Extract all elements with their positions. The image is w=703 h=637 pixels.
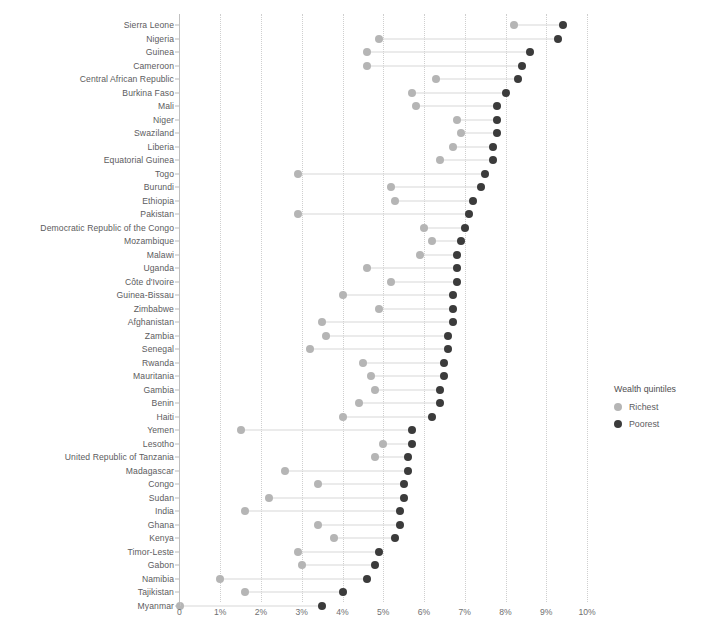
data-point-richest[interactable] (294, 548, 302, 556)
chart-row[interactable]: Zimbabwe (0, 302, 703, 316)
data-point-richest[interactable] (412, 102, 420, 110)
chart-row[interactable]: Mozambique (0, 234, 703, 248)
data-point-richest[interactable] (241, 507, 249, 515)
data-point-richest[interactable] (318, 318, 326, 326)
data-point-poorest[interactable] (461, 224, 469, 232)
data-point-poorest[interactable] (518, 62, 526, 70)
chart-row[interactable]: Burundi (0, 180, 703, 194)
data-point-richest[interactable] (363, 264, 371, 272)
chart-row[interactable]: Mali (0, 99, 703, 113)
data-point-poorest[interactable] (436, 399, 444, 407)
data-point-richest[interactable] (379, 440, 387, 448)
chart-row[interactable]: India (0, 504, 703, 518)
chart-row[interactable]: Tajikistan (0, 585, 703, 599)
chart-row[interactable]: Malawi (0, 248, 703, 262)
chart-row[interactable]: Timor-Leste (0, 545, 703, 559)
chart-row[interactable]: Senegal (0, 342, 703, 356)
chart-row[interactable]: Pakistan (0, 207, 703, 221)
chart-row[interactable]: Guinea (0, 45, 703, 59)
legend-item-richest[interactable]: Richest (614, 402, 702, 412)
data-point-richest[interactable] (371, 453, 379, 461)
data-point-poorest[interactable] (400, 480, 408, 488)
chart-row[interactable]: Ghana (0, 518, 703, 532)
chart-row[interactable]: Namibia (0, 572, 703, 586)
data-point-richest[interactable] (420, 224, 428, 232)
data-point-richest[interactable] (355, 399, 363, 407)
data-point-poorest[interactable] (363, 575, 371, 583)
chart-row[interactable]: Cameroon (0, 59, 703, 73)
data-point-poorest[interactable] (408, 440, 416, 448)
chart-row[interactable]: Côte d'Ivoire (0, 275, 703, 289)
chart-row[interactable]: Sierra Leone (0, 18, 703, 32)
data-point-richest[interactable] (314, 521, 322, 529)
data-point-poorest[interactable] (444, 332, 452, 340)
chart-row[interactable]: United Republic of Tanzania (0, 450, 703, 464)
data-point-richest[interactable] (265, 494, 273, 502)
chart-row[interactable]: Zambia (0, 329, 703, 343)
data-point-richest[interactable] (436, 156, 444, 164)
data-point-richest[interactable] (237, 426, 245, 434)
data-point-poorest[interactable] (465, 210, 473, 218)
data-point-poorest[interactable] (481, 170, 489, 178)
chart-row[interactable]: Benin (0, 396, 703, 410)
chart-row[interactable]: Yemen (0, 423, 703, 437)
data-point-richest[interactable] (387, 278, 395, 286)
data-point-poorest[interactable] (444, 345, 452, 353)
data-point-poorest[interactable] (440, 372, 448, 380)
chart-row[interactable]: Central African Republic (0, 72, 703, 86)
chart-row[interactable]: Niger (0, 113, 703, 127)
chart-row[interactable]: Equatorial Guinea (0, 153, 703, 167)
chart-row[interactable]: Swaziland (0, 126, 703, 140)
chart-row[interactable]: Liberia (0, 140, 703, 154)
data-point-richest[interactable] (432, 75, 440, 83)
data-point-richest[interactable] (294, 210, 302, 218)
data-point-poorest[interactable] (493, 102, 501, 110)
data-point-poorest[interactable] (493, 116, 501, 124)
chart-row[interactable]: Congo (0, 477, 703, 491)
data-point-richest[interactable] (281, 467, 289, 475)
chart-row[interactable]: Mauritania (0, 369, 703, 383)
data-point-poorest[interactable] (391, 534, 399, 542)
data-point-poorest[interactable] (559, 21, 567, 29)
data-point-richest[interactable] (408, 89, 416, 97)
data-point-poorest[interactable] (489, 143, 497, 151)
chart-row[interactable]: Ethiopia (0, 194, 703, 208)
chart-row[interactable]: Rwanda (0, 356, 703, 370)
data-point-richest[interactable] (241, 588, 249, 596)
data-point-poorest[interactable] (404, 453, 412, 461)
data-point-richest[interactable] (298, 561, 306, 569)
data-point-poorest[interactable] (318, 602, 326, 610)
data-point-poorest[interactable] (489, 156, 497, 164)
data-point-poorest[interactable] (375, 548, 383, 556)
data-point-poorest[interactable] (339, 588, 347, 596)
data-point-poorest[interactable] (449, 291, 457, 299)
data-point-poorest[interactable] (554, 35, 562, 43)
chart-row[interactable]: Gabon (0, 558, 703, 572)
data-point-richest[interactable] (449, 143, 457, 151)
data-point-richest[interactable] (339, 291, 347, 299)
data-point-poorest[interactable] (453, 278, 461, 286)
chart-row[interactable]: Madagascar (0, 464, 703, 478)
data-point-richest[interactable] (391, 197, 399, 205)
data-point-richest[interactable] (216, 575, 224, 583)
data-point-richest[interactable] (339, 413, 347, 421)
data-point-poorest[interactable] (436, 386, 444, 394)
legend-item-poorest[interactable]: Poorest (614, 419, 702, 429)
chart-row[interactable]: Uganda (0, 261, 703, 275)
data-point-richest[interactable] (322, 332, 330, 340)
data-point-richest[interactable] (330, 534, 338, 542)
chart-row[interactable]: Lesotho (0, 437, 703, 451)
data-point-richest[interactable] (416, 251, 424, 259)
data-point-richest[interactable] (371, 386, 379, 394)
data-point-richest[interactable] (387, 183, 395, 191)
chart-row[interactable]: Myanmar (0, 599, 703, 613)
data-point-richest[interactable] (510, 21, 518, 29)
data-point-richest[interactable] (363, 62, 371, 70)
chart-row[interactable]: Burkina Faso (0, 86, 703, 100)
data-point-richest[interactable] (314, 480, 322, 488)
data-point-poorest[interactable] (404, 467, 412, 475)
data-point-richest[interactable] (428, 237, 436, 245)
chart-row[interactable]: Togo (0, 167, 703, 181)
data-point-richest[interactable] (306, 345, 314, 353)
data-point-poorest[interactable] (514, 75, 522, 83)
